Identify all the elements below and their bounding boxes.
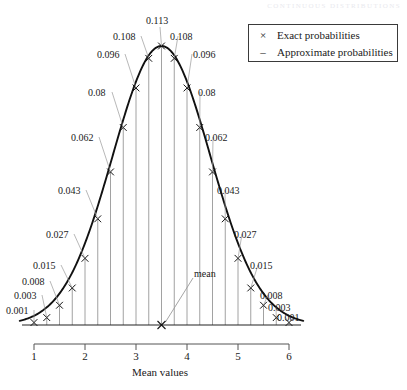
data-value-label: 0.113 [146, 16, 168, 26]
data-value-label: 0.108 [113, 32, 136, 42]
data-value-label: 0.062 [205, 133, 228, 143]
data-value-label: 0.008 [22, 277, 45, 287]
data-value-label: 0.027 [46, 230, 69, 240]
data-value-label: 0.096 [193, 50, 216, 60]
data-value-label: 0.096 [97, 50, 120, 60]
data-value-label: 0.08 [198, 88, 216, 98]
data-value-label: 0.062 [71, 133, 94, 143]
x-tick-label: 6 [286, 350, 292, 362]
legend-label-exact: Exact probabilities [277, 29, 360, 41]
data-value-label: 0.043 [58, 186, 81, 196]
legend-label-approximate: Approximate probabilities [277, 46, 393, 58]
data-value-label: 0.043 [217, 186, 240, 196]
x-tick-label: 1 [31, 350, 37, 362]
chart-figure: CONTINUOUS DISTRIBUTIONS × Exact probabi… [0, 0, 407, 390]
data-value-label: 0.027 [234, 230, 257, 240]
x-tick-label: 2 [82, 350, 88, 362]
legend-item-exact: × Exact probabilities [255, 27, 360, 43]
data-value-label: 0.08 [88, 88, 106, 98]
data-value-label: 0.001 [277, 313, 300, 323]
dash-marker-icon: – [255, 46, 271, 58]
mean-leader-line [158, 278, 194, 329]
x-tick-label: 4 [184, 350, 190, 362]
data-value-label: 0.015 [250, 261, 273, 271]
x-tick-label: 5 [235, 350, 241, 362]
data-value-label: 0.108 [170, 32, 193, 42]
data-value-label: 0.001 [6, 306, 29, 316]
x-axis-title: Mean values [132, 366, 188, 378]
x-tick-label: 3 [133, 350, 139, 362]
data-value-label: 0.008 [260, 291, 283, 301]
mean-annotation-label: mean [194, 268, 216, 279]
data-value-label: 0.015 [33, 261, 56, 271]
x-axis [34, 344, 289, 350]
cross-marker-icon: × [255, 29, 271, 41]
data-value-label: 0.003 [14, 291, 37, 301]
legend: × Exact probabilities – Approximate prob… [248, 24, 398, 62]
legend-item-approximate: – Approximate probabilities [255, 44, 393, 60]
